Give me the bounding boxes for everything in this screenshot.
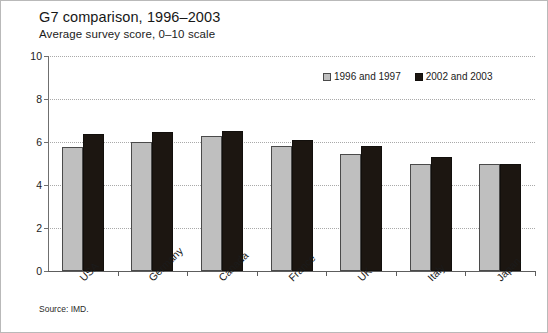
bar: [340, 154, 361, 271]
y-tick-label: 0: [36, 265, 42, 277]
y-tick-label: 10: [30, 50, 42, 62]
x-tick-mark: [465, 271, 466, 276]
bar-group: [62, 56, 104, 271]
bar: [271, 146, 292, 271]
bar: [479, 164, 500, 272]
bar-group: [479, 56, 521, 271]
source-note: Source: IMD.: [39, 304, 89, 314]
bar: [500, 164, 521, 272]
page-title: G7 comparison, 1996–2003: [39, 9, 220, 25]
chart-figure: G7 comparison, 1996–2003 Average survey …: [0, 0, 548, 333]
bar-group: [271, 56, 313, 271]
x-tick-mark: [257, 271, 258, 276]
x-tick-mark: [118, 271, 119, 276]
bar-group: [131, 56, 173, 271]
bar: [131, 142, 152, 271]
bar-group: [201, 56, 243, 271]
y-tick-label: 6: [36, 136, 42, 148]
bar-series-container: [48, 56, 535, 271]
bar-group: [340, 56, 382, 271]
bar: [361, 146, 382, 271]
y-tick-label: 4: [36, 179, 42, 191]
x-tick-mark: [326, 271, 327, 276]
bar: [410, 164, 431, 272]
bar: [201, 136, 222, 271]
bar: [431, 157, 452, 271]
x-tick-mark: [535, 271, 536, 276]
y-tick-label: 2: [36, 222, 42, 234]
chart-subtitle: Average survey score, 0–10 scale: [39, 28, 215, 40]
bar: [62, 147, 83, 271]
x-tick-mark: [396, 271, 397, 276]
plot-area: 0246810 USAGermanyCanadaFranceUKItalyJap…: [48, 56, 535, 271]
x-tick-mark: [187, 271, 188, 276]
bar: [83, 134, 104, 271]
y-tick-label: 8: [36, 93, 42, 105]
bar-group: [410, 56, 452, 271]
